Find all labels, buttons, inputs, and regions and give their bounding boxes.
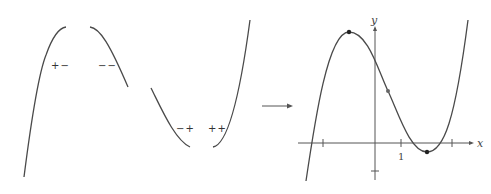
right-panel-graph: x y 1 — [298, 14, 484, 181]
local-min-point — [425, 150, 429, 154]
inflection-point — [386, 89, 390, 93]
segment-decreasing-concave-up — [151, 88, 190, 147]
left-panel: +− −− −+ ++ — [24, 20, 250, 177]
local-max-point — [347, 30, 351, 34]
x-tick-label-1: 1 — [398, 151, 404, 162]
sign-label-plus-minus: +− — [51, 60, 70, 71]
segment-increasing-concave-down — [24, 27, 66, 177]
sign-label-plus-plus: ++ — [208, 123, 227, 134]
sign-label-minus-minus: −− — [98, 60, 117, 71]
diagram-canvas: +− −− −+ ++ x y 1 — [0, 0, 491, 194]
right-arrow-icon — [262, 104, 293, 109]
x-axis-arrowhead — [469, 141, 474, 145]
cubic-curve — [306, 20, 468, 181]
segment-decreasing-concave-down — [90, 27, 128, 87]
y-axis-label: y — [370, 14, 378, 27]
x-axis-label: x — [477, 137, 484, 150]
sign-label-minus-plus: −+ — [176, 123, 195, 134]
